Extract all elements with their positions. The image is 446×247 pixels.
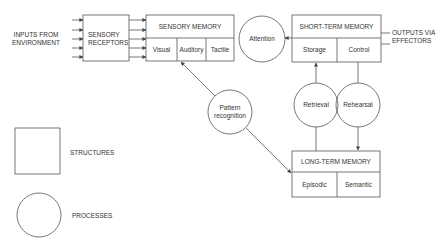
inputs-label-line1: INPUTS FROM — [2, 31, 70, 39]
legend-structure-square — [15, 128, 60, 174]
rehearsal-label: Rehearsal — [336, 101, 380, 109]
pattern-recognition-label: Pattern recognition — [208, 104, 252, 120]
sensory-tactile: Tactile — [206, 46, 234, 54]
long-term-memory-title: LONG-TERM MEMORY — [292, 158, 380, 166]
retrieval-label: Retrieval — [294, 101, 338, 109]
input-arrows — [72, 20, 83, 57]
inputs-label: INPUTS FROM ENVIRONMENT — [2, 31, 70, 47]
sensory-auditory: Auditory — [177, 46, 206, 54]
pattern-line1: Pattern — [208, 104, 252, 112]
legend-process-circle — [17, 193, 61, 237]
sensory-visual: Visual — [146, 46, 177, 54]
outputs-label-line1: OUTPUTS VIA — [392, 29, 435, 37]
sensory-receptors-line2: RECEPTORS — [88, 39, 128, 47]
sensory-memory-title: SENSORY MEMORY — [146, 23, 234, 31]
pattern-line2: recognition — [208, 112, 252, 120]
outputs-label-line2: EFFECTORS — [392, 37, 435, 45]
short-term-memory-title: SHORT-TERM MEMORY — [292, 23, 381, 31]
ltm-episodic: Episodic — [292, 181, 337, 189]
stm-control: Control — [337, 46, 381, 54]
legend-processes-label: PROCESSES — [72, 212, 112, 220]
inputs-label-line2: ENVIRONMENT — [2, 39, 70, 47]
sensory-receptors-line1: SENSORY — [88, 31, 128, 39]
outputs-label: OUTPUTS VIA EFFECTORS — [392, 29, 435, 45]
legend-structures-label: STRUCTURES — [70, 149, 114, 157]
stm-storage: Storage — [292, 46, 337, 54]
sensory-receptors-label: SENSORY RECEPTORS — [88, 31, 128, 47]
attention-label: Attention — [239, 35, 285, 43]
ltm-semantic: Semantic — [337, 181, 380, 189]
